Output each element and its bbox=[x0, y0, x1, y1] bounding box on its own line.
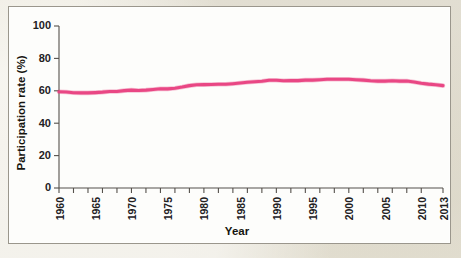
series-group bbox=[59, 79, 443, 93]
x-axis-title: Year bbox=[225, 225, 250, 237]
y-axis-tick-label: 100 bbox=[33, 19, 51, 31]
x-axis-tick-label: 1965 bbox=[90, 197, 102, 221]
x-axis-tick-label: 1985 bbox=[235, 197, 247, 221]
x-axis-tick-label: 2013 bbox=[438, 197, 450, 221]
y-axis: 020406080100 bbox=[33, 19, 59, 193]
x-axis-tick-label: 1975 bbox=[162, 197, 174, 221]
x-axis-tick-label: 1990 bbox=[271, 197, 283, 221]
x-axis-tick-label: 1995 bbox=[307, 197, 319, 221]
y-axis-tick-label: 20 bbox=[39, 149, 51, 161]
y-axis-title: Participation rate (%) bbox=[15, 55, 27, 170]
x-axis-tick-label: 2005 bbox=[380, 197, 392, 221]
y-axis-tick-label: 0 bbox=[45, 181, 51, 193]
x-axis-tick-label: 1960 bbox=[54, 197, 66, 221]
x-axis-tick-label: 1980 bbox=[198, 197, 210, 221]
series-line bbox=[59, 79, 443, 93]
y-axis-tick-label: 40 bbox=[39, 117, 51, 129]
x-axis-tick-label: 2010 bbox=[416, 197, 428, 221]
x-axis: 1960196519701975198019851990199520002005… bbox=[54, 188, 450, 220]
y-axis-tick-label: 60 bbox=[39, 84, 51, 96]
x-axis-tick-label: 1970 bbox=[126, 197, 138, 221]
figure-panel: 020406080100 196019651970197519801985199… bbox=[8, 6, 451, 244]
participation-rate-line-chart: 020406080100 196019651970197519801985199… bbox=[9, 7, 452, 245]
y-axis-tick-label: 80 bbox=[39, 52, 51, 64]
chart-plot-area: 020406080100 196019651970197519801985199… bbox=[9, 7, 452, 245]
x-axis-tick-label: 2000 bbox=[343, 197, 355, 221]
